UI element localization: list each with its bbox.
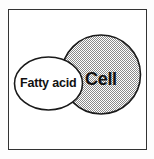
fatty-acid-label: Fatty acid: [20, 76, 76, 90]
diagram-figure: Fatty acid Cell: [0, 0, 154, 159]
cell-label: Cell: [85, 69, 117, 90]
